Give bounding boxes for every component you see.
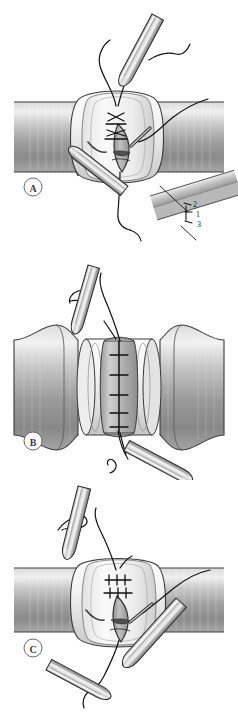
panel-b: B: [0, 255, 238, 480]
vessel-tube-b-right: [160, 325, 224, 450]
panel-label-a-text: A: [29, 183, 37, 194]
inset-label-3: 3: [197, 220, 201, 229]
panel-label-b: B: [24, 432, 42, 450]
panel-label-c: C: [24, 639, 42, 657]
panel-label-a: A: [24, 178, 42, 196]
vessel-tube-b-left: [14, 325, 78, 450]
panel-c: C: [0, 480, 238, 715]
instrument-forceps-left-c[interactable]: [46, 659, 113, 702]
panel-label-c-text: C: [29, 644, 36, 655]
instrument-needle-holder-a[interactable]: [115, 14, 163, 89]
inset-label-1: 1: [196, 210, 200, 219]
inset-label-2: 2: [193, 200, 197, 209]
panel-label-b-text: B: [30, 437, 37, 448]
panel-a: 2 1 3 A: [0, 0, 238, 255]
figure-root: 2 1 3 A: [0, 0, 238, 715]
layer-detail-inset-a: 2 1 3: [150, 170, 238, 240]
